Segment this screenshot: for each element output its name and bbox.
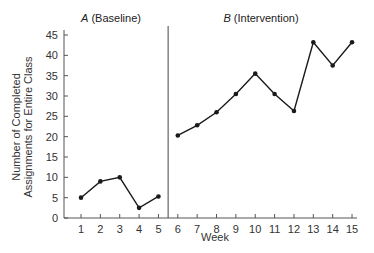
x-tick-label: 6: [175, 223, 181, 235]
data-point: [253, 71, 258, 76]
data-point: [350, 40, 355, 45]
data-point: [156, 194, 161, 199]
x-tick-label: 10: [249, 223, 261, 235]
y-tick-label: 40: [46, 49, 58, 61]
x-tick-label: 13: [307, 223, 319, 235]
data-point: [330, 63, 335, 68]
x-tick-label: 2: [97, 223, 103, 235]
x-tick-label: 7: [194, 223, 200, 235]
data-point: [292, 109, 297, 114]
data-point: [79, 195, 84, 200]
phase-label: A (Baseline): [80, 12, 141, 24]
x-tick-label: 4: [136, 223, 142, 235]
x-tick-label: 1: [78, 223, 84, 235]
phase-label: B (Intervention): [223, 12, 298, 24]
data-point: [98, 179, 103, 184]
y-tick-label: 0: [52, 212, 58, 224]
series-line: [178, 42, 352, 135]
y-tick-label: 10: [46, 171, 58, 183]
data-point: [272, 92, 277, 97]
x-tick-label: 3: [117, 223, 123, 235]
data-point: [311, 40, 316, 45]
x-tick-label: 12: [288, 223, 300, 235]
data-point: [137, 206, 142, 211]
x-tick-label: 11: [269, 223, 280, 235]
y-axis-title-line: Number of Completed: [10, 73, 22, 181]
y-tick-label: 30: [46, 90, 58, 102]
x-axis: 123456789101112131415Week: [64, 214, 358, 243]
data-point: [195, 123, 200, 128]
line-chart: Number of CompletedAssignments for Entir…: [0, 0, 374, 253]
series-line: [81, 177, 158, 208]
x-axis-title: Week: [201, 231, 229, 243]
y-axis: 051015202530354045: [46, 29, 68, 224]
y-axis-title: Number of CompletedAssignments for Entir…: [10, 56, 34, 198]
data-series: [79, 40, 355, 210]
y-axis-title-line: Assignments for Entire Class: [22, 56, 34, 198]
x-tick-label: 5: [155, 223, 161, 235]
y-tick-label: 15: [46, 151, 58, 163]
y-tick-label: 35: [46, 70, 58, 82]
phase-labels: A (Baseline)B (Intervention): [80, 12, 299, 24]
data-point: [234, 92, 239, 97]
data-point: [214, 110, 219, 115]
data-point: [117, 175, 122, 180]
data-point: [176, 133, 181, 138]
x-tick-label: 14: [327, 223, 339, 235]
y-tick-label: 5: [52, 192, 58, 204]
y-tick-label: 45: [46, 29, 58, 41]
y-tick-label: 20: [46, 131, 58, 143]
x-tick-label: 15: [346, 223, 358, 235]
x-tick-label: 9: [233, 223, 239, 235]
y-tick-label: 25: [46, 110, 58, 122]
